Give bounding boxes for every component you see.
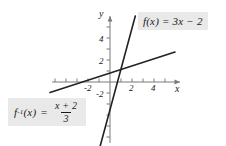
y-axis-label: y <box>99 9 103 19</box>
x-tick-label-4: 4 <box>151 84 156 93</box>
x-axis <box>52 80 180 85</box>
y-tick-label-neg2: -2 <box>96 90 104 99</box>
function-label-box: f(x) = 3x − 2 <box>138 12 208 30</box>
x-axis-label: x <box>175 84 179 94</box>
fraction-numerator: x + 2 <box>53 101 79 112</box>
y-tick-label-4: 4 <box>99 35 104 44</box>
line-function <box>100 16 135 146</box>
inverse-label-fraction: x + 2 3 <box>53 101 79 124</box>
inverse-label-arg: (x) <box>24 106 37 118</box>
y-axis <box>108 16 113 143</box>
x-tick-label-2: 2 <box>129 84 134 93</box>
x-tick-label-neg2: -2 <box>84 84 92 93</box>
y-tick-label-2: 2 <box>99 57 104 66</box>
inverse-function-label-box: f-1(x) = x + 2 3 <box>8 98 86 126</box>
inverse-label-equals: = <box>40 106 48 118</box>
graph-figure: y x -2 2 4 4 2 -2 f(x) = 3x − 2 f-1(x) =… <box>0 0 226 146</box>
line-inverse-function <box>50 52 175 93</box>
fraction-denominator: 3 <box>61 112 70 124</box>
function-label-text: f(x) = 3x − 2 <box>143 15 203 27</box>
